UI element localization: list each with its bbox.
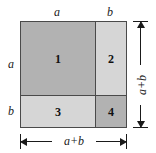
region-3: 3 <box>21 96 96 127</box>
arrow-left-icon <box>20 138 27 146</box>
top-edge-label-b: b <box>107 6 113 18</box>
left-edge-label-a: a <box>8 58 14 70</box>
region-2: 2 <box>96 22 126 96</box>
arrow-down-icon <box>137 121 145 128</box>
geometry-figure: a b a b 1 2 3 4 a+b a+b <box>0 0 156 153</box>
region-1: 1 <box>21 22 96 96</box>
outer-square: 1 2 3 4 <box>20 21 127 128</box>
region-4-label: 4 <box>108 106 114 118</box>
vertical-dimension: a+b <box>133 21 149 128</box>
region-1-label: 1 <box>55 53 61 65</box>
region-2-label: 2 <box>108 53 114 65</box>
region-3-label: 3 <box>55 106 61 118</box>
region-4: 4 <box>96 96 126 127</box>
top-edge-label-a: a <box>54 6 60 18</box>
horizontal-dimension: a+b <box>20 134 127 150</box>
arrow-up-icon <box>137 21 145 28</box>
left-edge-label-b: b <box>8 105 14 117</box>
horizontal-dimension-label: a+b <box>52 135 96 147</box>
arrow-right-icon <box>120 138 127 146</box>
vertical-dimension-label: a+b <box>134 65 150 105</box>
